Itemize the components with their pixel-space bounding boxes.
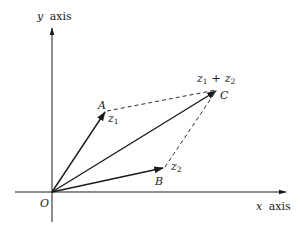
z2-sub: 2 <box>177 165 182 174</box>
point-label-origin: O <box>40 197 49 210</box>
x-axis-var: x <box>256 200 263 213</box>
dashed-line-b-to-c <box>165 91 216 167</box>
parallelogram-diagram: y axis x axis O A B C z1 z2 z1+z2 <box>0 0 300 230</box>
sum-plus: + <box>212 72 221 85</box>
point-label-c: C <box>220 89 229 102</box>
y-axis-var: y <box>36 10 44 23</box>
vector-z1 <box>52 112 105 192</box>
y-axis-word: axis <box>50 10 72 23</box>
point-label-b: B <box>154 175 163 188</box>
x-axis-label: x axis <box>256 200 291 213</box>
sum-z2-sub: 2 <box>231 77 236 86</box>
point-label-a: A <box>97 99 106 112</box>
vector-z2 <box>52 168 163 192</box>
y-axis-label: y axis <box>36 10 72 23</box>
vector-label-z1-plus-z2: z1+z2 <box>196 72 236 86</box>
sum-z1-sub: 1 <box>203 77 208 86</box>
vector-z1-plus-z2 <box>52 91 216 192</box>
x-axis-word: axis <box>269 200 291 213</box>
z1-sub: 1 <box>114 117 119 126</box>
vector-label-z1: z1 <box>107 112 119 126</box>
vector-label-z2: z2 <box>170 160 182 174</box>
